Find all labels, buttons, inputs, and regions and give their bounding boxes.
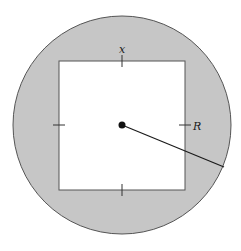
diagram-canvas: x R [0,0,241,251]
side-label-x: x [119,43,126,56]
radius-label-r: R [192,120,201,133]
diagram: x R [0,0,241,251]
center-dot [119,122,126,129]
